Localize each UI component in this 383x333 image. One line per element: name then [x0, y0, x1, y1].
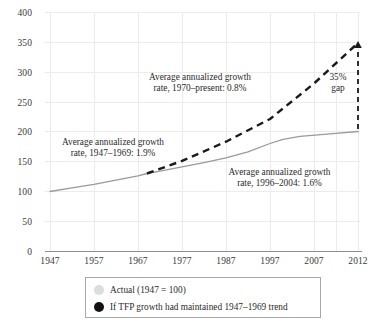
annotation-line-2: rate, 1970–present: 0.8%: [120, 83, 280, 94]
chart-legend: Actual (1947 = 100) If TFP growth had ma…: [85, 277, 321, 318]
legend-item-actual: Actual (1947 = 100): [94, 283, 186, 297]
horizontal-gridlines: [45, 13, 360, 222]
legend-item-label: If TFP growth had maintained 1947–1969 t…: [110, 302, 288, 313]
x-axis-tick-label: 1997: [250, 256, 290, 266]
x-axis-tick-label: 1957: [74, 256, 114, 266]
annotation-growth-1996-2004: Average annualized growth rate, 1996–200…: [197, 167, 362, 190]
x-axis-tick-label: 2007: [294, 256, 334, 266]
legend-item-tfp-trend: If TFP growth had maintained 1947–1969 t…: [94, 300, 288, 314]
annotation-gap-label: 35% gap: [323, 72, 353, 95]
x-axis-tick-label: 2012: [338, 256, 378, 266]
annotation-growth-1970-present: Average annualized growth rate, 1970–pre…: [120, 72, 280, 95]
annotation-line-2: rate, 1996–2004: 1.6%: [197, 178, 362, 189]
annotation-line-1: Average annualized growth: [33, 137, 193, 148]
annotation-line-1: Average annualized growth: [120, 72, 280, 83]
annotation-growth-1947-1969: Average annualized growth rate, 1947–196…: [33, 137, 193, 160]
circle-marker-icon: [94, 285, 104, 295]
x-axis-tick-label: 1977: [162, 256, 202, 266]
circle-marker-icon: [94, 302, 104, 312]
legend-item-label: Actual (1947 = 100): [110, 285, 186, 296]
x-axis-tick-label: 1987: [206, 256, 246, 266]
gap-label-line-1: 35%: [323, 72, 353, 83]
x-axis-tick-label: 1947: [30, 256, 70, 266]
annotation-line-1: Average annualized growth: [197, 167, 362, 178]
chart-figure: 400 350 300 250 200 150 100 50 0: [0, 0, 383, 333]
annotation-line-2: rate, 1947–1969: 1.9%: [33, 148, 193, 159]
gap-label-line-2: gap: [323, 83, 353, 94]
x-axis-tick-label: 1967: [118, 256, 158, 266]
